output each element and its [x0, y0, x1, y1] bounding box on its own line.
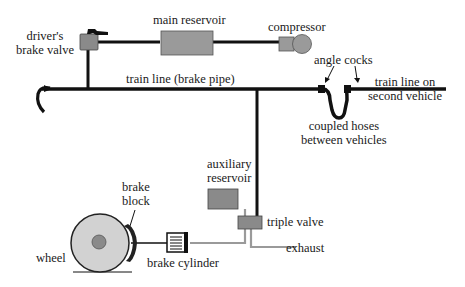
brake-block-label: brake block: [122, 180, 150, 208]
triple-valve-label: triple valve: [267, 215, 324, 229]
label-line: coupled hoses: [301, 119, 387, 133]
brake-cylinder-label: brake cylinder: [147, 256, 219, 270]
label-line: train line on: [368, 75, 442, 89]
coupled-hoses: [318, 85, 351, 118]
label-line: auxiliary: [207, 157, 251, 171]
label-line: brake: [122, 180, 150, 194]
brake-cylinder: [131, 232, 188, 253]
auxiliary-reservoir: [208, 189, 238, 209]
label-line: brake valve: [16, 43, 74, 57]
angle-cocks-label: angle cocks: [314, 53, 373, 67]
train-line-label: train line (brake pipe): [126, 72, 235, 86]
angle-cock-right: [344, 85, 351, 93]
main-reservoir-label: main reservoir: [153, 13, 226, 27]
coupled-hoses-label: coupled hoses between vehicles: [301, 119, 387, 147]
label-line: between vehicles: [301, 133, 387, 147]
exhaust-label: exhaust: [286, 241, 324, 255]
compressor: [279, 35, 312, 54]
angle-cock-left: [318, 85, 325, 93]
auxiliary-reservoir-label: auxiliary reservoir: [207, 157, 251, 185]
angle-cocks-arrows: [325, 66, 360, 83]
drivers-brake-valve-label: driver's brake valve: [16, 29, 74, 57]
label-line: block: [122, 194, 150, 208]
train-line-second-vehicle-label: train line on second vehicle: [368, 75, 442, 103]
label-line: second vehicle: [368, 89, 442, 103]
wheel-label: wheel: [36, 251, 66, 265]
wheel: [71, 214, 132, 272]
label-line: driver's: [16, 29, 74, 43]
compressor-label: compressor: [268, 20, 326, 34]
label-line: reservoir: [207, 171, 251, 185]
main-reservoir: [161, 31, 280, 55]
